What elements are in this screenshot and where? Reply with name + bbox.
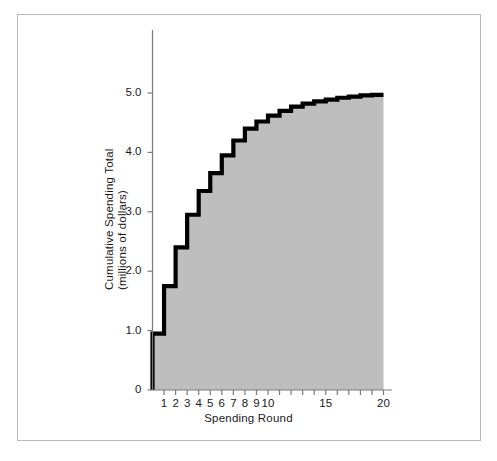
cumulative-spending-step-chart [0, 0, 497, 461]
y-tick-label: 2.0 [112, 264, 142, 276]
x-axis-ticks [164, 390, 383, 395]
y-tick-label: 1.0 [112, 324, 142, 336]
y-tick-label: 3.0 [112, 205, 142, 217]
x-tick-label: 15 [314, 397, 338, 409]
x-axis-title: Spending Round [0, 412, 497, 424]
y-tick-label: 5.0 [112, 86, 142, 98]
y-tick-label: 0 [112, 383, 142, 395]
x-tick-label: 20 [372, 397, 396, 409]
x-tick-label: 10 [256, 397, 280, 409]
y-tick-label: 4.0 [112, 145, 142, 157]
